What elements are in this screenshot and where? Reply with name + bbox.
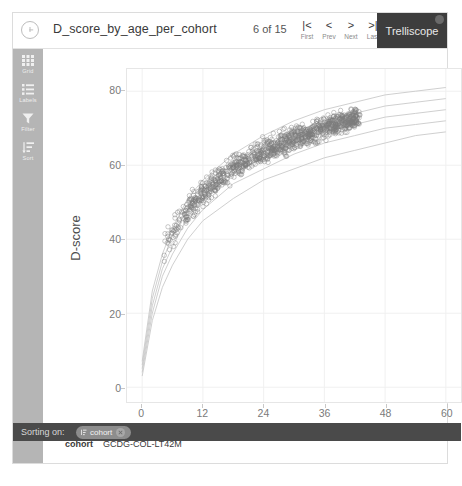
y-tick-mark — [121, 388, 125, 389]
y-tick-label: 60 — [79, 159, 121, 171]
nav-prev-glyph: < — [318, 18, 340, 32]
panel-content: D-score 020406080 01224364860 Age (in mo… — [43, 49, 447, 463]
x-tick-label: 12 — [197, 407, 209, 419]
y-tick-label: 0 — [79, 382, 121, 394]
nav-first-label: First — [296, 32, 318, 41]
nav-next-glyph: > — [340, 18, 362, 32]
y-tick-label: 20 — [79, 308, 121, 320]
help-icon[interactable] — [435, 15, 444, 24]
nav-prev-label: Prev — [318, 32, 340, 41]
sidebar-item-labels[interactable]: Labels — [13, 78, 43, 107]
pager-nav: |< First < Prev > Next >| Last — [296, 18, 384, 41]
x-tick-label: 48 — [380, 407, 392, 419]
labels-icon — [21, 83, 35, 96]
sidebar-label-grid: Grid — [13, 68, 43, 74]
sort-chip-label: cohort — [90, 428, 112, 437]
scatter-plot — [127, 69, 461, 402]
x-axis-ticks: 01224364860 — [126, 405, 462, 421]
close-icon[interactable] — [116, 428, 125, 437]
y-tick-mark — [121, 239, 125, 240]
panel-counter: 6 of 15 — [253, 23, 287, 35]
x-tick-label: 36 — [319, 407, 331, 419]
sorting-bar: Sorting on: cohort — [13, 423, 461, 441]
trelliscope-app: D_score_by_age_per_cohort 6 of 15 |< Fir… — [12, 12, 448, 464]
plot-area: D-score 020406080 01224364860 Age (in mo… — [43, 49, 447, 427]
info-icon[interactable] — [21, 21, 39, 39]
y-tick-mark — [121, 314, 125, 315]
x-tick-mark — [141, 404, 142, 408]
nav-first-glyph: |< — [296, 18, 318, 32]
brand-label: Trelliscope — [386, 25, 439, 37]
x-tick-mark — [263, 404, 264, 408]
nav-next-button[interactable]: > Next — [340, 18, 362, 41]
sort-asc-icon — [80, 429, 87, 436]
sidebar-item-sort[interactable]: Sort — [13, 136, 43, 165]
sidebar-label-sort: Sort — [13, 155, 43, 161]
x-tick-label: 24 — [258, 407, 270, 419]
sidebar-item-grid[interactable]: Grid — [13, 49, 43, 78]
nav-next-label: Next — [340, 32, 362, 41]
sidebar: Grid Labels Filter — [13, 49, 43, 463]
app-header: D_score_by_age_per_cohort 6 of 15 |< Fir… — [13, 13, 447, 49]
filter-icon — [21, 112, 35, 125]
chart-panel — [126, 68, 462, 403]
y-tick-mark — [121, 165, 125, 166]
x-tick-mark — [202, 404, 203, 408]
y-tick-mark — [121, 90, 125, 91]
y-tick-label: 80 — [79, 84, 121, 96]
x-tick-mark — [325, 404, 326, 408]
sidebar-label-filter: Filter — [13, 126, 43, 132]
sorting-label: Sorting on: — [21, 427, 65, 437]
y-tick-label: 40 — [79, 233, 121, 245]
grid-icon — [21, 54, 35, 67]
sort-chip-cohort[interactable]: cohort — [76, 426, 131, 439]
x-tick-label: 0 — [138, 407, 144, 419]
sort-icon — [21, 141, 35, 154]
sidebar-item-filter[interactable]: Filter — [13, 107, 43, 136]
x-tick-mark — [447, 404, 448, 408]
x-tick-label: 60 — [441, 407, 453, 419]
panel-meta: cohort GCDG-COL-LT42M — [43, 439, 447, 455]
page-title: D_score_by_age_per_cohort — [53, 22, 217, 36]
y-axis-ticks: 020406080 — [71, 68, 121, 403]
x-tick-mark — [386, 404, 387, 408]
nav-first-button[interactable]: |< First — [296, 18, 318, 41]
sidebar-label-labels: Labels — [13, 97, 43, 103]
brand-bar[interactable]: Trelliscope — [377, 13, 447, 48]
nav-prev-button[interactable]: < Prev — [318, 18, 340, 41]
